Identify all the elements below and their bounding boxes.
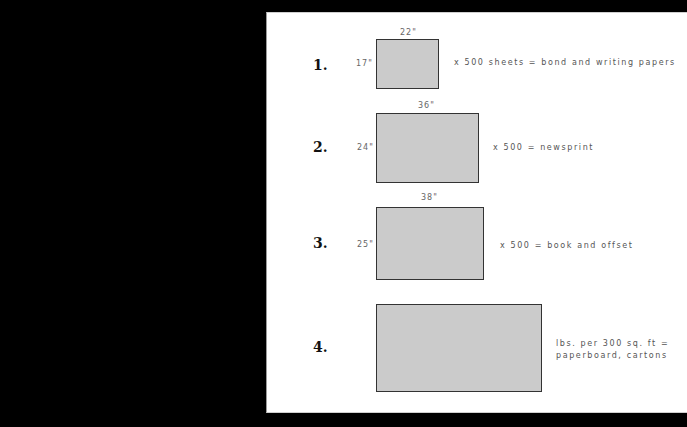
sheet-rect-3 [376, 207, 484, 280]
row-3-width-label: 38" [421, 193, 438, 202]
row-2-number: 2. [313, 139, 328, 155]
row-3-description: x 500 = book and offset [500, 240, 634, 252]
row-1-height-label: 17" [356, 59, 373, 68]
sheet-rect-2 [376, 113, 479, 183]
row-2-description: x 500 = newsprint [493, 142, 594, 154]
row-3-number: 3. [313, 235, 328, 251]
row-3-height-label: 25" [357, 240, 374, 249]
row-4-number: 4. [313, 339, 328, 355]
row-4-description: lbs. per 300 sq. ft = paperboard, carton… [556, 338, 669, 362]
row-1-number: 1. [313, 57, 328, 73]
row-1-description: x 500 sheets = bond and writing papers [454, 57, 676, 69]
row-2-width-label: 36" [418, 101, 435, 110]
row-4-description-line-1: lbs. per 300 sq. ft = [556, 338, 669, 350]
row-1-width-label: 22" [400, 28, 417, 37]
row-4-description-line-2: paperboard, cartons [556, 350, 669, 362]
sheet-rect-4 [376, 304, 542, 392]
sheet-rect-1 [376, 39, 439, 89]
row-2-height-label: 24" [357, 143, 374, 152]
